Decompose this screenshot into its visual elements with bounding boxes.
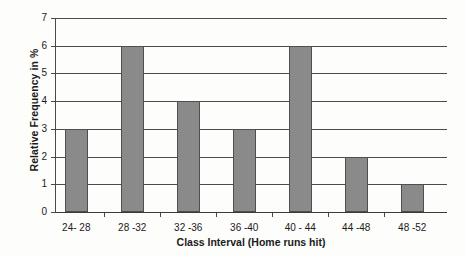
x-tick-mark	[104, 213, 105, 217]
bar	[177, 101, 200, 212]
gridline	[55, 46, 447, 47]
gridline	[55, 73, 447, 74]
y-tick-label: 5	[33, 68, 47, 78]
bar-chart: Relative Frequency in % 01234567 24- 282…	[0, 0, 466, 255]
bar	[345, 157, 368, 212]
y-tick-mark	[51, 184, 56, 185]
bar	[289, 46, 312, 212]
y-tick-label: 2	[33, 152, 47, 162]
y-tick-mark	[51, 46, 56, 47]
x-tick-mark	[328, 213, 329, 217]
y-tick-label: 6	[33, 41, 47, 51]
y-tick-mark	[51, 73, 56, 74]
bar	[233, 129, 256, 212]
y-tick-mark	[51, 157, 56, 158]
x-axis-line	[55, 212, 447, 213]
y-tick-mark	[51, 101, 56, 102]
x-tick-mark	[384, 213, 385, 217]
bar	[121, 46, 144, 212]
y-tick-mark	[51, 129, 56, 130]
x-tick-mark	[160, 213, 161, 217]
y-tick-label: 1	[33, 179, 47, 189]
y-tick-mark	[51, 18, 56, 19]
x-tick-mark	[272, 213, 273, 217]
y-tick-label: 0	[33, 207, 47, 217]
bar	[65, 129, 88, 212]
gridline	[55, 18, 447, 19]
x-tick-mark	[216, 213, 217, 217]
x-tick-label: 48 -52	[377, 222, 447, 233]
y-tick-label: 4	[33, 96, 47, 106]
y-tick-label: 3	[33, 124, 47, 134]
bar	[401, 184, 424, 212]
gridline	[55, 101, 447, 102]
y-tick-mark	[51, 212, 56, 213]
plot-area: 01234567 24- 2828 -3232 -3636 -4040 - 44…	[55, 18, 447, 212]
x-axis-title: Class Interval (Home runs hit)	[55, 236, 447, 248]
y-tick-label: 7	[33, 13, 47, 23]
